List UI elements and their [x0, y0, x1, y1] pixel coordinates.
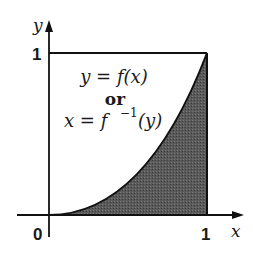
equation-y-equals-f-x: y = f(x) — [79, 66, 148, 87]
y-axis-label: y — [32, 15, 43, 35]
equation-x-equals-f-inverse-y: x = f −1 (y) — [64, 106, 162, 131]
svg-text:−1: −1 — [120, 106, 138, 120]
x-tick-1: 1 — [201, 225, 210, 244]
x-tick-0: 0 — [33, 225, 42, 244]
inverse-function-diagram: y x 1 0 1 y = f(x) or x = f −1 (y) — [0, 0, 253, 257]
y-tick-1: 1 — [32, 45, 41, 64]
svg-text:x = f: x = f — [64, 110, 111, 131]
y-axis-arrow-icon — [45, 20, 53, 32]
x-axis-label: x — [231, 221, 241, 241]
svg-text:(y): (y) — [138, 110, 162, 131]
x-axis-arrow-icon — [232, 211, 244, 219]
